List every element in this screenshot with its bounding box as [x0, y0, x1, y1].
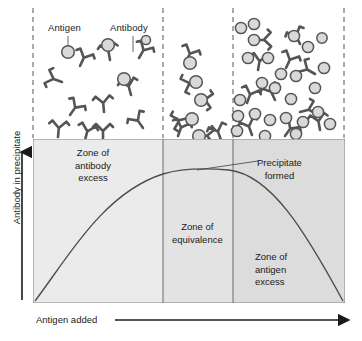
antigen-circle	[297, 116, 308, 127]
antigen-circle	[190, 76, 203, 89]
antigen-circle	[242, 52, 253, 63]
antigen-label: Antigen	[48, 22, 81, 33]
y-axis-label: Antibody in precipitate	[11, 98, 22, 258]
zone-label-equivalence: Zone of equivalence	[172, 221, 223, 246]
antigen-circle	[102, 39, 115, 52]
antigen-circle	[324, 118, 335, 129]
panel-equivalence	[169, 43, 231, 140]
panel-antibody-excess	[44, 36, 156, 141]
antigen-circle	[290, 70, 301, 81]
antigen-circle	[262, 52, 273, 63]
precipitate-annotation-line1: Precipitate	[257, 157, 302, 170]
panel-antigen-excess	[231, 18, 335, 140]
antigen-circle	[318, 62, 329, 73]
antigen-circle	[288, 30, 299, 41]
antigen-circle	[232, 110, 243, 121]
antigen-circle	[309, 82, 320, 93]
zone-antibody-excess-line3: excess	[75, 172, 111, 185]
antigen-circle	[312, 106, 323, 117]
antigen-circle	[264, 114, 275, 125]
antigen-circle	[235, 22, 246, 33]
zone-antigen-excess-line3: excess	[255, 276, 287, 289]
precipitate-annotation-line2: formed	[257, 170, 302, 183]
precipitin-curve-figure: Antigen Antibody Zone of antibody excess	[0, 0, 362, 341]
zone-equivalence-line2: equivalence	[172, 234, 223, 247]
antigen-circle	[248, 34, 259, 45]
antibody-label: Antibody	[110, 22, 148, 33]
antigen-circle	[142, 36, 151, 45]
x-axis-label: Antigen added	[36, 314, 97, 325]
zone-antibody-excess-line1: Zone of	[75, 147, 111, 160]
molecular-panels-svg	[0, 0, 362, 140]
zone-antibody-excess-line2: antibody	[75, 160, 111, 173]
zone-label-antibody-excess: Zone of antibody excess	[75, 147, 111, 185]
antigen-circle	[285, 93, 296, 104]
zone-equivalence-line1: Zone of	[172, 221, 223, 234]
antigen-circle	[275, 68, 286, 79]
antigen-circle	[280, 112, 291, 123]
antigen-circle	[184, 57, 197, 70]
molecular-panels: Antigen Antibody	[0, 0, 362, 140]
antigen-circle	[302, 41, 313, 52]
zone-antigen-excess-line2: antigen	[255, 264, 287, 277]
antigen-circle	[269, 82, 280, 93]
antigen-circle	[118, 73, 131, 86]
antigen-circle	[186, 113, 199, 126]
antigen-circle	[231, 125, 242, 136]
precipitin-plot: Zone of antibody excess Zone of equivale…	[33, 139, 345, 303]
zone-label-antigen-excess: Zone of antigen excess	[255, 251, 287, 289]
precipitate-formed-annotation: Precipitate formed	[257, 157, 302, 182]
antigen-circle	[62, 46, 75, 59]
antigen-circle	[290, 128, 301, 139]
antigen-circle	[234, 94, 245, 105]
antigen-circle	[195, 94, 208, 107]
antigen-circle	[248, 18, 259, 29]
antigen-circle	[317, 33, 327, 43]
antigen-circle	[249, 108, 260, 119]
antigen-circle	[256, 77, 267, 88]
zone-antigen-excess-line1: Zone of	[255, 251, 287, 264]
